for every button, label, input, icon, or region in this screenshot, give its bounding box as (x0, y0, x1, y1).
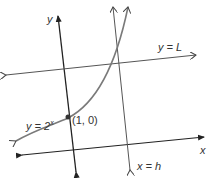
y-axis-label: y (47, 14, 53, 25)
point-label: (1, 0) (72, 115, 98, 126)
horizontal-line-label: y = L (158, 42, 182, 53)
curve-label-exponent: x (50, 119, 54, 126)
curve-label: y = 2x (26, 119, 54, 132)
x-axis (22, 137, 204, 155)
x-axis-label: x (200, 145, 206, 156)
vertical-line-label: x = h (137, 161, 161, 172)
horizontal-line-y-equals-L (6, 55, 196, 75)
point-1-0 (66, 115, 71, 120)
curve-label-base: y = 2 (26, 120, 50, 132)
y-axis (58, 16, 76, 172)
diagram-canvas (0, 0, 222, 180)
